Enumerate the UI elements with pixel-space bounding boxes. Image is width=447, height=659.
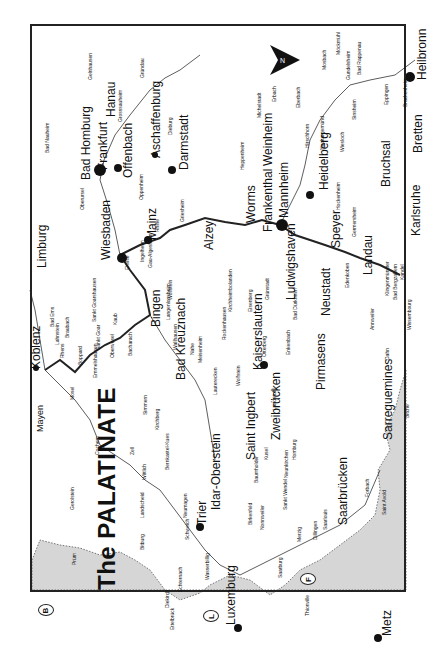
town-label: Forbach (365, 479, 370, 497)
city-label: Luxemburg (225, 565, 237, 625)
town-label: Homburg (292, 439, 297, 460)
city-label: Bretten (412, 114, 424, 153)
town-label: Neunkirchen (284, 450, 289, 478)
town-label: Bad Dürkheim (293, 288, 298, 320)
city-label: Saarbrücken (337, 457, 349, 525)
town-label: Bad Nauheim (45, 123, 50, 153)
town-label: Eppingen (384, 84, 389, 105)
city-label: Kaiserslautern (252, 293, 264, 370)
town-label: Kirchberg (155, 409, 160, 430)
town-label: Hirschhorn (305, 124, 310, 148)
city-label: Trier (196, 501, 208, 525)
city-label: Frankenthal (262, 169, 274, 232)
city-label: Mayen (36, 405, 45, 432)
town-label: Erbach (272, 86, 277, 102)
town-label: Birkenfeld (248, 503, 253, 525)
town-label: Mosbach (322, 50, 327, 70)
town-label: Grosssauheim (118, 90, 123, 122)
town-label: Schweich (185, 519, 190, 540)
town-label: Eisenberg (248, 289, 253, 312)
town-label: Gründau (140, 59, 145, 78)
town-label: Gau-Algesheim (148, 234, 153, 268)
town-label: Germersheim (352, 207, 357, 237)
town-label: Kandel (400, 264, 405, 280)
town-label: Eberbach (296, 87, 301, 108)
town-label: Simmern (143, 395, 148, 415)
city-label: Heilbronn (416, 29, 428, 80)
city-label: Limburg (36, 225, 48, 268)
town-label: Cochem (95, 436, 100, 455)
town-label: Merzig (297, 527, 302, 542)
town-label: Hockenheim (336, 182, 341, 210)
town-label: Rhens (60, 344, 65, 358)
town-label: Oberursel (80, 188, 85, 210)
town-label: Lahnstein (55, 323, 60, 345)
town-label: Wöllstein (168, 280, 173, 300)
town-label: Bad Bergzabern (393, 264, 398, 300)
city-label: Frankfurt (97, 122, 109, 170)
town-label: Baumholder (254, 456, 259, 483)
town-label: Zell (130, 447, 135, 455)
city-label: Neustadt (320, 268, 332, 316)
town-label: Edenkoben (345, 263, 350, 288)
town-label: Neumagen (183, 494, 188, 518)
map-title: The PALATINATE (95, 387, 119, 590)
town-label: Möckmühl (336, 32, 341, 55)
city-label: Hanau (105, 82, 117, 117)
town-label: Rockenhausen (222, 307, 227, 340)
town-label: Lauterecken (213, 367, 218, 395)
town-label: Kirchheimbolanden (228, 269, 233, 312)
city-label: Idar-Oberstein (210, 433, 222, 510)
town-label: Wolfstein (236, 366, 241, 386)
town-label: Boppard (78, 346, 83, 365)
city-label: Aschaffenburg (150, 81, 162, 158)
town-label: Sankt Wendel (283, 479, 288, 510)
city-label: Wiesbaden (100, 200, 112, 260)
town-label: Eltville (125, 256, 130, 270)
city-label: Speyer (330, 210, 342, 248)
country-badge-belgium: B (38, 604, 54, 616)
town-label: Sankt Goarshausen (92, 278, 97, 322)
city-label: Mannheim (278, 162, 290, 218)
town-label: Bad Rappenau (357, 42, 362, 75)
town-label: Wittlich (142, 464, 147, 480)
city-label: Bad Homburg (80, 106, 92, 180)
town-label: Braubach (65, 317, 70, 338)
town-label: Ingelheim (140, 240, 145, 262)
town-label: Oberwesel (110, 334, 115, 358)
city-label: Metz (381, 610, 393, 636)
town-label: Prüm (72, 553, 77, 565)
city-label: Pirmasens (315, 333, 327, 390)
town-label: Meisenheim (198, 336, 203, 363)
city-label: Landau (362, 235, 374, 275)
town-label: Saarlouis (323, 509, 328, 530)
city-label: Koblenz (30, 326, 42, 369)
town-label: Dahn (385, 348, 390, 360)
town-label: Wiesloch (340, 132, 345, 152)
town-label: Griesheim (180, 199, 185, 222)
country-badge-luxembourg: L (203, 610, 219, 622)
town-label: Emmelshausen (93, 344, 98, 378)
country-badge-france: F (300, 573, 316, 585)
town-label: Bacharach (128, 332, 133, 356)
city-label: Worms (245, 185, 257, 223)
palatinate-map: N The PALATINATE B L F Bad HomburgFrankf… (0, 0, 447, 659)
town-label: Kaub (113, 313, 118, 325)
town-label: Diekirch (165, 590, 170, 608)
town-label: Bernkastel-Kues (165, 433, 170, 470)
town-label: Sinsheim (352, 99, 357, 120)
city-label: Karlsruhe (410, 185, 422, 236)
town-label: Klingenmünster (385, 261, 390, 296)
town-label: Gundelsheim (346, 51, 351, 80)
town-label: Oppenheim (139, 174, 144, 200)
town-label: Landstuhl (272, 388, 277, 410)
town-label: Saarburg (278, 557, 283, 578)
town-label: Enkenbach (286, 330, 291, 355)
town-label: Brackenheim (403, 78, 408, 107)
town-label: Otterberg (262, 336, 267, 357)
city-label: Offenbach (122, 123, 134, 178)
town-label: Bitche (405, 404, 410, 418)
city-label: Weinheim (262, 113, 274, 166)
town-label: Wallhausen (173, 324, 178, 350)
town-label: Annweiler (370, 308, 375, 330)
